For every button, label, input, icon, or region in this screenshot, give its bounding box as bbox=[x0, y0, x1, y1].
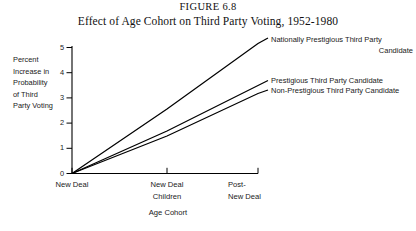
x-tick-label-new-deal-children: New Deal Children bbox=[127, 179, 207, 202]
x-tick-label-post-new-deal-line-2: New Deal bbox=[228, 191, 288, 203]
series-label-non-prestigious-line-1: Non-Prestigious Third Party Candidate bbox=[271, 86, 399, 95]
y-tick-label-0: 0 bbox=[50, 170, 64, 178]
series-label-nationally-prestigious-line-1: Nationally Prestigious Third Party bbox=[271, 35, 382, 44]
series-label-non-prestigious: Non-Prestigious Third Party Candidate bbox=[271, 86, 399, 97]
series-label-prestigious-line-1: Prestigious Third Party Candidate bbox=[271, 76, 383, 85]
x-tick-label-post-new-deal-line-1: Post- bbox=[228, 179, 288, 191]
x-axis-title: Age Cohort bbox=[118, 208, 218, 218]
x-tick-label-new-deal: New Deal bbox=[32, 179, 112, 191]
x-tick-label-new-deal-children-line-1: New Deal bbox=[127, 179, 207, 191]
y-tick-label-4: 4 bbox=[50, 69, 64, 77]
y-axis-caption-line-5: Party Voting bbox=[13, 100, 67, 112]
x-tick-label-post-new-deal: Post- New Deal bbox=[228, 179, 288, 202]
series-line-nationally-prestigious bbox=[72, 38, 268, 174]
series-label-nationally-prestigious: Nationally Prestigious Third Party Candi… bbox=[271, 35, 413, 56]
x-tick-label-new-deal-line-1: New Deal bbox=[32, 179, 112, 191]
figure-page: FIGURE 6.8 Effect of Age Cohort on Third… bbox=[0, 0, 416, 231]
y-tick-label-3: 3 bbox=[50, 94, 64, 102]
y-axis-caption: Percent Increase in Probability of Third… bbox=[13, 54, 67, 112]
y-tick-label-1: 1 bbox=[50, 144, 64, 152]
y-tick-label-2: 2 bbox=[50, 119, 64, 127]
series-label-nationally-prestigious-line-2: Candidate bbox=[271, 46, 413, 57]
x-tick-label-new-deal-children-line-2: Children bbox=[127, 191, 207, 203]
y-axis-caption-line-1: Percent bbox=[13, 54, 67, 66]
y-tick-label-5: 5 bbox=[50, 44, 64, 52]
series-line-prestigious bbox=[72, 81, 268, 174]
y-axis-caption-line-3: Probability bbox=[13, 77, 67, 89]
series-label-prestigious: Prestigious Third Party Candidate bbox=[271, 76, 383, 87]
